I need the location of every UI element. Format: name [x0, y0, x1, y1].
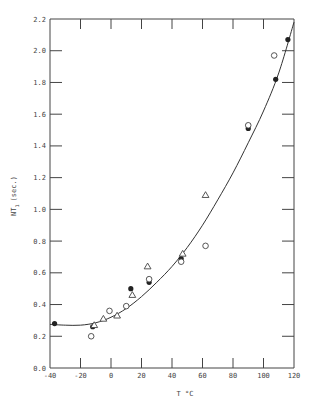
open-circle-marker: [271, 53, 277, 59]
filled-circle-marker: [128, 286, 133, 291]
x-tick-label: 100: [257, 372, 270, 380]
filled-circle-marker: [273, 77, 278, 82]
y-tick-label: 0.8: [33, 238, 46, 246]
fitted-curve-line: [50, 22, 294, 325]
open-triangle-marker: [179, 250, 186, 256]
y-tick-label: 1.6: [33, 111, 46, 119]
x-tick-label: 60: [198, 372, 206, 380]
chart: -40-200204060801001200.00.20.40.60.81.01…: [0, 0, 315, 406]
y-tick-label: 0.2: [33, 333, 46, 341]
y-tick-label: 1.2: [33, 174, 46, 182]
x-tick-label: 20: [137, 372, 145, 380]
open-circle-marker: [245, 122, 251, 128]
x-axis-title: T °C: [177, 390, 194, 398]
open-circle-marker: [107, 308, 113, 314]
x-tick-label: 40: [168, 372, 176, 380]
y-tick-label: 0.6: [33, 269, 46, 277]
open-triangle-marker: [100, 315, 107, 321]
open-circle-marker: [88, 333, 94, 339]
x-tick-label: 0: [109, 372, 113, 380]
y-tick-label: 2.0: [33, 47, 46, 55]
open-circle-marker: [146, 276, 152, 282]
y-tick-label: 0.0: [33, 365, 46, 373]
open-circle-marker: [123, 303, 129, 309]
y-tick-label: 1.0: [33, 206, 46, 214]
data-points: [52, 37, 291, 339]
fitted-curve: [50, 22, 294, 325]
x-tick-label: -40: [44, 372, 57, 380]
x-tick-label: 120: [288, 372, 301, 380]
y-tick-label: 0.4: [33, 301, 46, 309]
open-circle-marker: [178, 259, 184, 265]
open-triangle-marker: [202, 192, 209, 198]
open-triangle-marker: [144, 263, 151, 269]
y-tick-label: 2.2: [33, 16, 46, 24]
open-triangle-marker: [129, 292, 136, 298]
x-tick-label: 80: [229, 372, 237, 380]
y-axis-title: NT1(sec.): [10, 176, 20, 216]
x-tick-label: -20: [74, 372, 87, 380]
y-tick-label: 1.8: [33, 79, 46, 87]
open-circle-marker: [203, 243, 209, 249]
y-tick-label: 1.4: [33, 142, 46, 150]
filled-circle-marker: [285, 37, 290, 42]
filled-circle-marker: [52, 321, 57, 326]
